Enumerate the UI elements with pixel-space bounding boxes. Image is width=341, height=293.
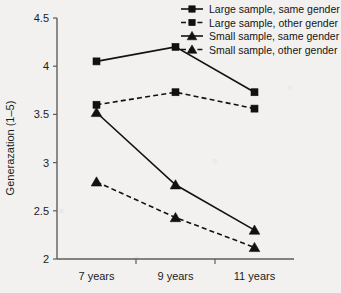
data-point-marker	[249, 242, 260, 251]
data-point-marker	[249, 225, 260, 234]
legend-label: Large sample, other gender	[209, 17, 339, 29]
legend-marker	[189, 6, 195, 12]
legend-label: Large sample, same gender	[209, 3, 340, 15]
chart-legend: Large sample, same genderLarge sample, o…	[181, 3, 340, 56]
line-chart: 22.533.544.5 7 years9 years11 years Larg…	[0, 0, 341, 293]
data-point-marker	[251, 89, 258, 96]
y-tick-label: 3	[43, 157, 49, 169]
x-tick-label: 9 years	[157, 270, 194, 282]
x-tick-label: 11 years	[234, 270, 276, 282]
data-point-marker	[172, 89, 179, 96]
series-2	[93, 89, 258, 112]
data-point-marker	[91, 177, 102, 186]
legend-label: Small sample, other gender	[209, 44, 338, 56]
data-point-marker	[93, 58, 100, 65]
x-tick-label: 7 years	[78, 270, 115, 282]
y-tick-label: 2.5	[34, 205, 49, 217]
legend-item-3[interactable]: Small sample, same gender	[181, 30, 340, 42]
y-tick-label: 4	[43, 60, 49, 72]
legend-marker	[187, 45, 197, 53]
y-tick-label: 4.5	[34, 12, 49, 24]
x-axis: 7 years9 years11 years	[57, 259, 294, 282]
data-point-marker	[251, 105, 258, 112]
data-point-marker	[172, 43, 179, 50]
legend-marker	[189, 19, 195, 25]
legend-label: Small sample, same gender	[209, 30, 340, 42]
data-point-marker	[170, 213, 181, 222]
y-tick-label: 2	[43, 253, 49, 265]
y-axis: 22.533.544.5	[34, 12, 57, 265]
y-axis-title: Generazation (1–5)	[4, 101, 16, 196]
chart-canvas: 22.533.544.5 7 years9 years11 years Larg…	[0, 0, 341, 293]
legend-item-1[interactable]: Large sample, same gender	[181, 3, 340, 15]
series-layer	[91, 43, 260, 251]
legend-item-4[interactable]: Small sample, other gender	[181, 44, 338, 56]
data-point-marker	[91, 107, 102, 116]
legend-item-2[interactable]: Large sample, other gender	[181, 17, 339, 29]
y-tick-label: 3.5	[34, 108, 49, 120]
